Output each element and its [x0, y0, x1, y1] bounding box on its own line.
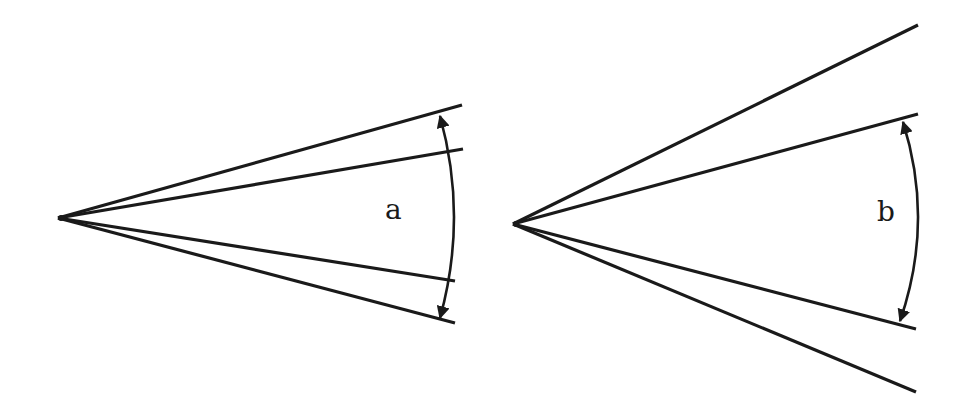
- ray-inner-lower: [513, 224, 916, 329]
- ray-inner-upper: [58, 149, 463, 218]
- panel-a: [58, 105, 463, 323]
- angle-label-b: b: [877, 198, 895, 226]
- ray-inner-upper: [513, 114, 918, 224]
- diagram-canvas: [0, 0, 967, 409]
- vertex-b: [513, 221, 519, 227]
- angle-comparison-diagram: a b: [0, 0, 967, 409]
- angle-arc-a: [440, 116, 454, 318]
- panel-b: [513, 25, 918, 392]
- ray-outer-lower: [513, 224, 916, 392]
- vertex-a: [58, 215, 64, 221]
- angle-arc-b: [900, 122, 918, 321]
- angle-label-a: a: [385, 196, 402, 224]
- ray-outer-upper: [513, 25, 918, 224]
